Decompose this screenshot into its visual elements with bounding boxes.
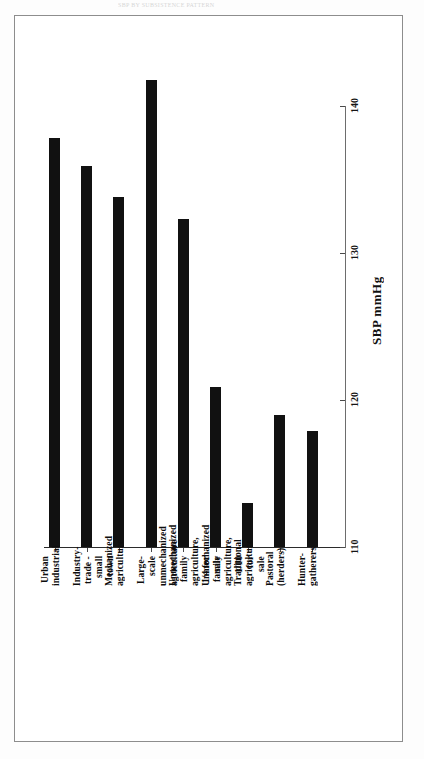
category-tick <box>151 548 152 552</box>
category-tick <box>87 548 88 552</box>
value-tick <box>340 106 345 107</box>
category-label: Hunter-gatherers <box>297 556 424 586</box>
bar <box>49 138 60 547</box>
value-tick-label: 120 <box>349 385 379 415</box>
value-axis-title: SBP mmHg <box>366 256 388 366</box>
bar <box>274 415 285 547</box>
bar <box>210 387 221 547</box>
value-tick-label: 140 <box>349 91 379 121</box>
bar <box>146 80 157 547</box>
bar <box>113 197 124 547</box>
bar <box>307 431 318 547</box>
category-tick <box>183 548 184 552</box>
category-tick <box>216 548 217 552</box>
bar <box>178 219 189 547</box>
value-axis-line <box>345 106 346 548</box>
value-tick <box>340 400 345 401</box>
bar-chart-plot: 110120130140 Urban industrialIndustry-tr… <box>0 0 424 759</box>
value-tick <box>340 253 345 254</box>
bar <box>81 166 92 547</box>
value-tick <box>340 547 345 548</box>
